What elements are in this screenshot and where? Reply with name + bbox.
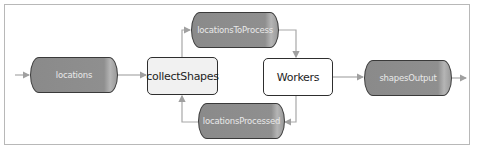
edge-locationstoprocess-workers (278, 30, 296, 57)
edge-collectshapes-locationstoprocess (182, 30, 190, 57)
node-locationsprocessed: locationsProcessed (198, 103, 285, 139)
node-locationstoprocess: locationsToProcess (191, 12, 279, 48)
node-label: locationsToProcess (197, 25, 273, 35)
node-collectshapes: collectShapes (147, 57, 218, 95)
edge-workers-locationsprocessed (285, 96, 296, 122)
edge-locationsprocessed-collectshapes (182, 96, 198, 122)
node-locations: locations (30, 57, 118, 93)
node-label: Workers (277, 71, 319, 84)
node-label: shapesOutput (379, 73, 436, 83)
node-label: locations (56, 70, 92, 80)
node-shapesoutput: shapesOutput (364, 60, 452, 96)
node-label: collectShapes (146, 70, 218, 83)
node-workers: Workers (263, 58, 333, 96)
node-label: locationsProcessed (203, 116, 280, 126)
